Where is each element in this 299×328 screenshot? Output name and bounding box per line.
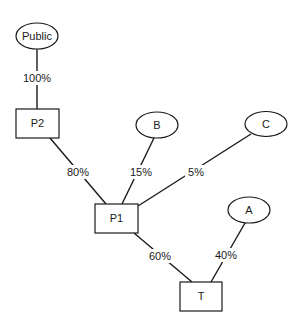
node-label-p1: P1 [110,212,123,224]
edge-label-public-p2: 100% [23,72,51,84]
edge-a-t: 40% [211,223,245,282]
node-t: T [180,282,222,311]
edge-label-p2-p1: 80% [67,166,89,178]
edge-p1-t: 60% [134,233,192,282]
edge-public-p2: 100% [20,49,54,109]
edge-label-c-p1: 5% [188,166,204,178]
node-c: C [245,112,287,137]
edge-label-a-t: 40% [215,249,237,261]
node-p2: P2 [16,109,59,138]
node-label-public: Public [22,30,52,42]
edge-p2-p1: 80% [50,138,106,204]
node-a: A [228,197,270,223]
node-public: Public [16,23,58,49]
node-p1: P1 [95,204,138,233]
edge-b-p1: 15% [122,138,155,204]
node-label-c: C [262,118,270,130]
node-label-p2: P2 [31,117,44,129]
edge-label-b-p1: 15% [130,166,152,178]
node-label-t: T [198,290,205,302]
ownership-diagram: 100% 80% 15% 5% 60% 40% Public P2 B [0,0,299,328]
node-label-b: B [153,119,160,131]
edge-label-p1-t: 60% [149,250,171,262]
node-label-a: A [245,204,253,216]
node-b: B [136,112,178,138]
